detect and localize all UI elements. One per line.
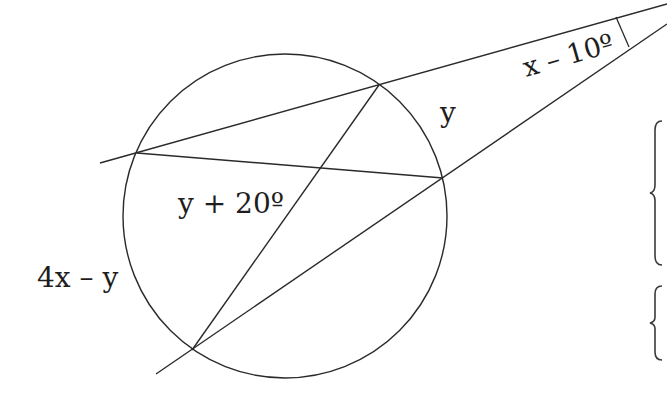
circle — [123, 54, 447, 378]
geometry-diagram: x – 10º y y + 20º 4x – y — [0, 0, 667, 395]
label-external-angle: x – 10º — [519, 27, 617, 82]
label-arc-large: 4x – y — [37, 261, 118, 294]
chord-ac — [137, 153, 443, 178]
angle-mark — [616, 17, 629, 47]
label-arc-small: y — [439, 96, 456, 129]
upper-secant-line — [100, 4, 667, 163]
label-interior-angle: y + 20º — [177, 187, 284, 220]
brace-upper — [650, 121, 662, 265]
diagram-canvas: x – 10º y y + 20º 4x – y — [0, 0, 667, 395]
brace-lower — [650, 286, 662, 360]
